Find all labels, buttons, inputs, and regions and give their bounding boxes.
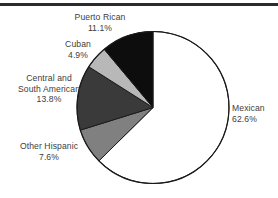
- slice-label-puerto-rican-percent: 11.1%: [62, 23, 138, 34]
- slice-label-mexican-name: Mexican: [232, 103, 278, 114]
- slice-label-other-hispanic-percent: 7.6%: [6, 152, 92, 163]
- slice-label-puerto-rican-name: Puerto Rican: [62, 12, 138, 23]
- slice-label-central-and-south-american-name-line1: Central and: [6, 73, 92, 84]
- slice-label-central-and-south-american-percent: 13.8%: [6, 94, 92, 105]
- slice-label-cuban-percent: 4.9%: [48, 50, 108, 61]
- slice-label-cuban: Cuban 4.9%: [48, 39, 108, 60]
- slice-label-mexican: Mexican 62.6%: [232, 103, 278, 124]
- slice-label-mexican-percent: 62.6%: [232, 114, 278, 125]
- slice-label-cuban-name: Cuban: [48, 39, 108, 50]
- slice-label-central-and-south-american: Central and South American 13.8%: [6, 73, 92, 105]
- slice-label-central-and-south-american-name-line2: South American: [6, 84, 92, 95]
- slice-label-puerto-rican: Puerto Rican 11.1%: [62, 12, 138, 33]
- pie-chart-figure: Puerto Rican 11.1% Cuban 4.9% Central an…: [0, 0, 278, 198]
- slice-label-other-hispanic: Other Hispanic 7.6%: [6, 141, 92, 162]
- slice-label-other-hispanic-name: Other Hispanic: [6, 141, 92, 152]
